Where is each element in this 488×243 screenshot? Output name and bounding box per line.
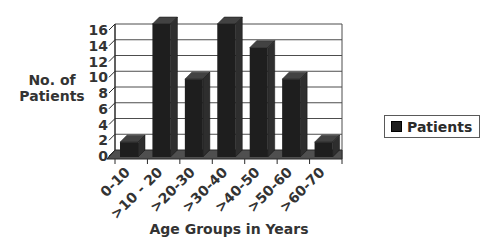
y-tick-label: 2	[98, 132, 108, 148]
legend-swatch-icon	[391, 121, 402, 132]
y-tick-label: 8	[98, 85, 108, 101]
y-tick-label: 16	[89, 22, 108, 38]
y-tick	[109, 119, 115, 125]
bar	[217, 24, 235, 157]
y-tick	[109, 40, 115, 46]
bar	[315, 142, 333, 157]
y-tick-label: 10	[89, 69, 109, 85]
bar-side-face	[300, 72, 307, 157]
y-tick	[109, 103, 115, 109]
y-tick-label: 6	[98, 101, 108, 117]
y-tick-label: 12	[89, 54, 108, 70]
bar-side-face	[235, 17, 242, 157]
y-tick	[109, 87, 115, 93]
bar	[282, 79, 300, 157]
bar	[250, 48, 268, 157]
legend: Patients	[384, 115, 480, 138]
x-axis-title: Age Groups in Years	[115, 221, 343, 237]
bar-side-face	[203, 72, 210, 157]
legend-label: Patients	[407, 119, 472, 135]
bar	[152, 24, 170, 157]
bar	[185, 79, 203, 157]
y-tick	[109, 134, 115, 140]
y-tick	[109, 71, 115, 77]
bar-side-face	[268, 41, 275, 157]
bar-side-face	[170, 17, 177, 157]
bar	[120, 142, 138, 157]
y-tick	[109, 24, 115, 30]
y-tick-label: 4	[98, 117, 108, 133]
chart-canvas: No. of Patients 02468101214160-10>10 - 2…	[0, 0, 488, 243]
y-tick-label: 0	[98, 148, 108, 164]
y-tick	[109, 56, 115, 62]
y-tick-label: 14	[89, 38, 109, 54]
